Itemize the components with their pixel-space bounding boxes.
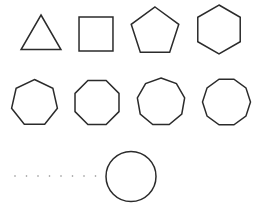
ellipsis-dot	[60, 175, 62, 177]
background	[0, 0, 258, 216]
ellipsis-dot	[83, 175, 85, 177]
polygon-sequence-diagram	[0, 0, 258, 216]
ellipsis-dot	[49, 175, 51, 177]
ellipsis-dot	[72, 175, 74, 177]
ellipsis-dot	[37, 175, 39, 177]
ellipsis-dot	[95, 175, 97, 177]
ellipsis-dot	[26, 175, 28, 177]
ellipsis-dot	[14, 175, 16, 177]
